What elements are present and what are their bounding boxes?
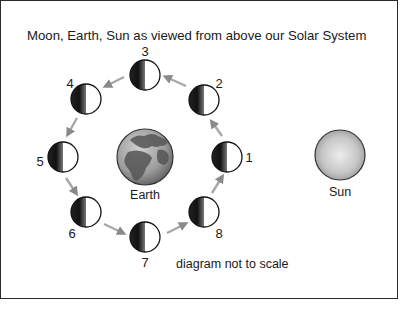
arrow-7-to-8	[167, 224, 185, 233]
moon-4: 4	[66, 76, 101, 114]
moon-label: 6	[68, 226, 75, 241]
moon-5: 5	[36, 142, 78, 172]
sun-label: Sun	[329, 185, 351, 199]
moon-label: 4	[66, 76, 73, 91]
arrow-6-to-7	[104, 224, 123, 233]
arrow-8-to-1	[212, 177, 222, 193]
arrow-1-to-2	[212, 122, 222, 136]
earth-label: Earth	[130, 188, 160, 202]
sun: Sun	[315, 130, 365, 199]
moon-dark-half-icon	[189, 197, 204, 227]
solar-system-diagram: Moon, Earth, Sun as viewed from above ou…	[0, 0, 412, 311]
moon-label: 2	[215, 76, 222, 91]
diagram-title: Moon, Earth, Sun as viewed from above ou…	[27, 28, 366, 43]
arrow-2-to-3	[166, 77, 186, 86]
arrow-5-to-6	[66, 178, 76, 193]
moon-6: 6	[68, 197, 101, 241]
moon-label: 8	[215, 226, 222, 241]
arrow-4-to-5	[68, 118, 77, 134]
scale-note: diagram not to scale	[176, 257, 289, 271]
moon-dark-half-icon	[130, 60, 145, 90]
sun-icon	[315, 130, 365, 180]
moon-1: 1	[212, 142, 253, 172]
moon-label: 7	[141, 255, 148, 270]
moon-dark-half-icon	[48, 142, 63, 172]
moon-dark-half-icon	[71, 197, 86, 227]
earth: Earth	[117, 129, 173, 202]
moon-7: 7	[130, 222, 160, 270]
moon-dark-half-icon	[212, 142, 227, 172]
moon-label: 5	[36, 154, 43, 169]
moon-dark-half-icon	[130, 222, 145, 252]
moon-8: 8	[189, 197, 223, 241]
moon-label: 1	[245, 150, 252, 165]
moon-label: 3	[141, 44, 148, 59]
moon-dark-half-icon	[189, 85, 204, 115]
arrow-3-to-4	[106, 77, 124, 86]
moon-3: 3	[130, 44, 160, 90]
moon-2: 2	[189, 76, 223, 115]
